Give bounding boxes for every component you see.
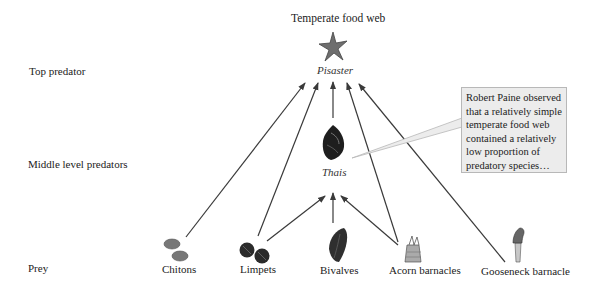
callout-box: Robert Paine observed that a relatively …	[461, 87, 567, 173]
limpet-icon	[240, 243, 270, 264]
chiton-icon	[164, 239, 188, 261]
callout-text: Robert Paine observed that a relatively …	[466, 92, 562, 171]
species-label-thais: Thais	[322, 166, 346, 178]
mussel-icon	[329, 228, 347, 262]
species-label-chitons: Chitons	[162, 263, 196, 275]
species-label-limpets: Limpets	[240, 263, 276, 275]
callout-pointer	[352, 118, 462, 158]
acorn-barnacle-icon	[405, 236, 421, 262]
snail-shell-icon	[323, 125, 344, 160]
gooseneck-barnacle-icon	[513, 228, 524, 262]
species-label-acorn-barnacles: Acorn barnacles	[389, 264, 461, 276]
species-label-gooseneck-barnacle: Gooseneck barnacle	[481, 265, 570, 277]
species-label-bivalves: Bivalves	[320, 264, 359, 276]
level-label-middle: Middle level predators	[28, 158, 128, 170]
edge-limpets-thais	[267, 196, 325, 241]
diagram-title: Temperate food web	[291, 12, 385, 24]
edge-acorn-pisaster	[347, 83, 398, 242]
edge-acorn-thais	[341, 196, 398, 245]
level-label-prey: Prey	[28, 262, 48, 274]
edge-chitons-pisaster	[186, 83, 305, 237]
starfish-icon	[319, 32, 347, 61]
species-label-pisaster: Pisaster	[317, 64, 353, 76]
level-label-top: Top predator	[29, 65, 85, 77]
